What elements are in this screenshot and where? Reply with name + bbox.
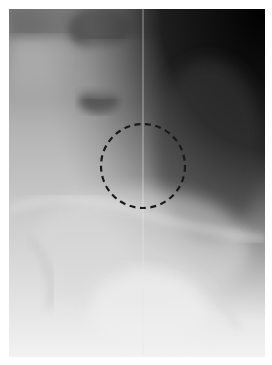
dashed-circle-annotation [101,124,185,208]
annotation-layer [9,9,265,357]
xray-image [9,9,265,357]
